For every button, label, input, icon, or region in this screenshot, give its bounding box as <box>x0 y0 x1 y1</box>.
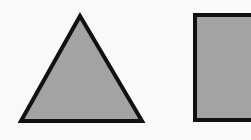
triangle-shape <box>21 16 142 121</box>
square-shape <box>195 15 251 120</box>
shapes-diagram <box>0 0 251 140</box>
diagram-canvas <box>0 0 251 140</box>
